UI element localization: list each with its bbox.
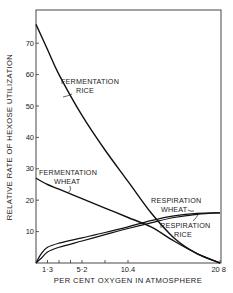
chart: 10203040506070 1·35·210.420 8 RELATIVE R… xyxy=(0,0,233,293)
label-respiration-rice-1: RESPIRATION xyxy=(160,221,210,230)
leader-fermentation-wheat xyxy=(68,186,71,193)
x-axis-ticks: 1·35·210.420 8 xyxy=(42,260,226,274)
y-tick-label: 70 xyxy=(26,39,34,48)
x-tick-label: 10.4 xyxy=(121,265,136,274)
leader-respiration-wheat xyxy=(188,210,194,211)
x-tick-label: 20 8 xyxy=(211,265,226,274)
label-respiration-wheat-1: RESPIRATION xyxy=(151,196,201,205)
label-fermentation-rice-2: RICE xyxy=(76,86,94,95)
y-tick-label: 30 xyxy=(26,164,34,173)
y-tick-label: 50 xyxy=(26,102,34,111)
label-respiration-rice-2: RICE xyxy=(174,230,192,239)
y-tick-label: 10 xyxy=(26,227,34,236)
y-axis-title: RELATIVE RATE OF HEXOSE UTILIZATION xyxy=(5,54,14,220)
y-axis-ticks: 10203040506070 xyxy=(26,39,39,236)
label-fermentation-rice-1: FERMENTATION xyxy=(61,77,119,86)
x-axis-title: PER CENT OXYGEN IN ATMOSPHERE xyxy=(54,276,202,285)
y-tick-label: 40 xyxy=(26,133,34,142)
x-tick-label: 1·3 xyxy=(42,265,53,274)
y-tick-label: 20 xyxy=(26,196,34,205)
label-fermentation-wheat-1: FERMENTATION xyxy=(39,168,97,177)
label-respiration-wheat-2: WHEAT xyxy=(161,205,188,214)
label-fermentation-wheat-2: WHEAT xyxy=(54,177,81,186)
y-tick-label: 60 xyxy=(26,70,34,79)
x-tick-label: 5·2 xyxy=(77,265,88,274)
